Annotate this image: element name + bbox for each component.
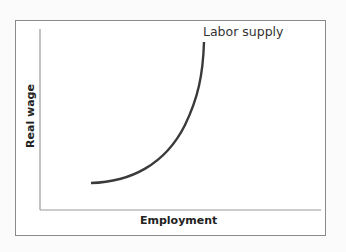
x-axis-label: Employment <box>140 214 217 227</box>
labor-supply-curve <box>91 42 204 183</box>
labor-supply-label: Labor supply <box>203 24 284 39</box>
y-axis-label: Real wage <box>24 84 37 148</box>
